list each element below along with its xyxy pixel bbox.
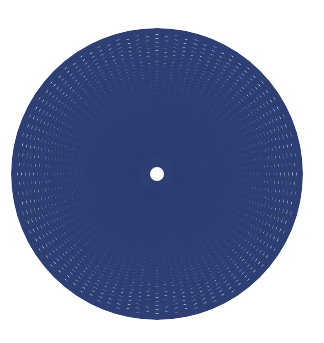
spiral-rosette-artwork [0,0,324,343]
